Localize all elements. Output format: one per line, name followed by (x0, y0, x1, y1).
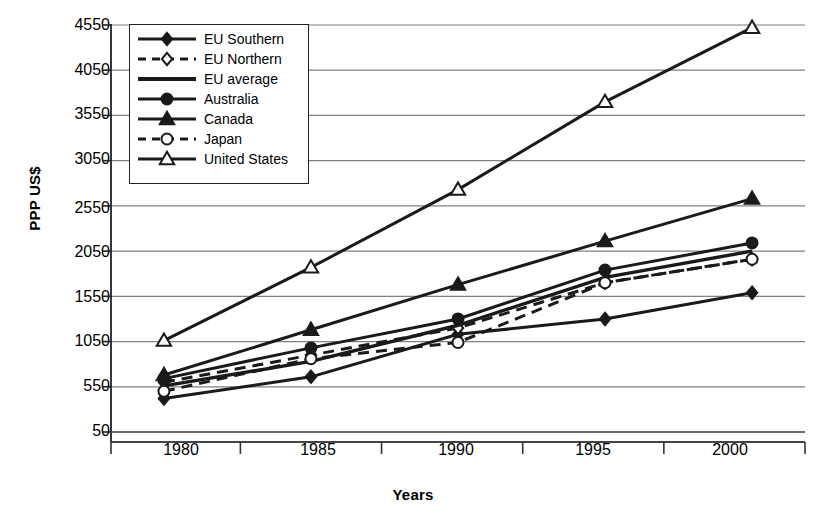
legend: EU Southern EU Northern EU average Austr… (129, 24, 309, 184)
plot-area (0, 0, 826, 516)
legend-swatch-japan (136, 130, 198, 148)
legend-swatch-canada (136, 110, 198, 128)
legend-swatch-eu-average (136, 70, 198, 88)
legend-item-eu-southern: EU Southern (136, 29, 302, 49)
legend-item-eu-average: EU average (136, 69, 302, 89)
legend-label: EU average (204, 72, 278, 86)
legend-item-eu-northern: EU Northern (136, 49, 302, 69)
legend-label: Japan (204, 132, 242, 146)
legend-swatch-australia (136, 90, 198, 108)
legend-item-canada: Canada (136, 109, 302, 129)
line-chart: PPP US$ Years 4550 4050 3550 3050 2550 2… (0, 0, 826, 516)
legend-label: EU Northern (204, 52, 282, 66)
legend-label: United States (204, 152, 288, 166)
legend-swatch-eu-southern (136, 30, 198, 48)
legend-label: Canada (204, 112, 253, 126)
legend-item-australia: Australia (136, 89, 302, 109)
legend-item-united-states: United States (136, 149, 302, 169)
legend-swatch-united-states (136, 150, 198, 168)
legend-label: EU Southern (204, 32, 284, 46)
legend-label: Australia (204, 92, 258, 106)
legend-swatch-eu-northern (136, 50, 198, 68)
legend-item-japan: Japan (136, 129, 302, 149)
